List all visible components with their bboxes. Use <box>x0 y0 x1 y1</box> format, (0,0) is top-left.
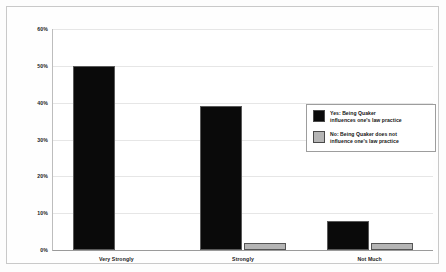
x-axis-tick-label: Very Strongly <box>99 256 134 262</box>
legend-swatch-gray-icon <box>313 131 325 143</box>
legend-label-yes: Yes: Being Quaker influences one's law p… <box>330 110 402 125</box>
bar-no <box>244 243 286 250</box>
y-axis-tick-label: 30% <box>37 137 48 143</box>
legend-swatch-black-icon <box>313 110 325 122</box>
y-axis-tick-label: 50% <box>37 63 48 69</box>
x-axis-tick-label: Strongly <box>232 256 254 262</box>
legend-label-no-line1: No: Being Quaker does not <box>330 131 397 137</box>
bar-yes <box>327 221 369 250</box>
y-axis-tick-label: 10% <box>37 210 48 216</box>
chart-legend: Yes: Being Quaker influences one's law p… <box>306 104 436 152</box>
legend-label-no: No: Being Quaker does not influence one'… <box>330 131 399 146</box>
gridline <box>53 29 433 30</box>
y-axis-tick-label: 40% <box>37 100 48 106</box>
legend-label-yes-line2: influences one's law practice <box>330 117 402 123</box>
bar-yes <box>73 66 115 250</box>
bar-yes <box>200 106 242 250</box>
y-axis-tick-label: 0% <box>40 247 48 253</box>
legend-label-no-line2: influence one's law practice <box>330 138 399 144</box>
y-axis-tick-label: 20% <box>37 173 48 179</box>
legend-item-yes: Yes: Being Quaker influences one's law p… <box>313 110 430 125</box>
legend-item-no: No: Being Quaker does not influence one'… <box>313 131 430 146</box>
chart-frame: 0%10%20%30%40%50%60% Very StronglyStrong… <box>6 6 439 264</box>
x-axis-tick-label: Not Much <box>357 256 381 262</box>
chart-container: 0%10%20%30%40%50%60% Very StronglyStrong… <box>0 0 446 272</box>
bar-no <box>371 243 413 250</box>
y-axis-tick-label: 60% <box>37 26 48 32</box>
legend-label-yes-line1: Yes: Being Quaker <box>330 110 376 116</box>
